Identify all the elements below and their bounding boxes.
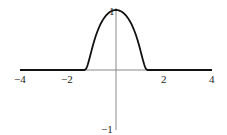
x-tick-label-2: 2 [161, 73, 167, 85]
x-tick-label-4: 4 [209, 73, 215, 85]
chart-canvas: −4 −2 2 4 1 −1 [0, 0, 227, 135]
x-tick-label-neg4: −4 [14, 73, 26, 85]
y-tick-label-neg1: −1 [101, 123, 113, 135]
x-tick-label-neg2: −2 [61, 73, 73, 85]
y-tick-label-1: 1 [109, 5, 115, 17]
